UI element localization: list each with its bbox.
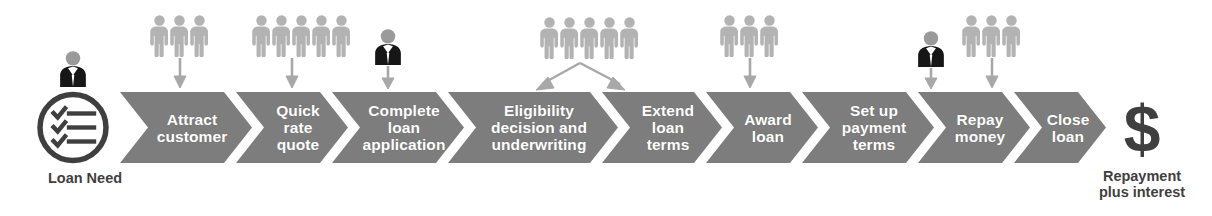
arrow-down-step-8	[925, 68, 937, 89]
chevron-label-step-2: Quick rate quote	[256, 92, 340, 163]
dollar-sign-icon: $	[1124, 92, 1161, 166]
checklist-circle-icon	[40, 95, 106, 161]
businessperson-icon-a4	[375, 29, 401, 65]
end-caption: Repayment plus interest	[1076, 168, 1208, 200]
arrow-split-steps-4-5	[536, 63, 625, 90]
chevron-label-step-3: Complete loan application	[352, 92, 456, 163]
start-caption: Loan Need	[30, 170, 140, 186]
people-group-icon-a6	[720, 15, 778, 57]
people-group-icon-a3	[252, 15, 350, 57]
arrow-down-step-3	[382, 66, 394, 89]
diagram-canvas: $	[0, 0, 1212, 216]
chevron-label-step-9: Close loan	[1034, 92, 1102, 163]
arrow-group	[174, 58, 998, 90]
chevron-label-step-5: Extend loan terms	[622, 92, 714, 163]
businessperson-icon-a7	[918, 31, 944, 67]
chevron-label-step-1: Attract customer	[140, 92, 244, 163]
people-group-icon-a2	[150, 15, 208, 57]
people-group-icon-a5	[540, 17, 638, 59]
arrow-down-step-2	[286, 58, 298, 88]
chevron-label-step-7: Set up payment terms	[822, 92, 926, 163]
chevron-label-step-4: Eligibility decision and underwriting	[468, 92, 610, 163]
people-group-icon-a8	[962, 15, 1020, 57]
chevron-label-step-8: Repay money	[938, 92, 1022, 163]
arrow-down-step-1	[174, 58, 186, 88]
chevron-label-step-6: Award loan	[726, 92, 810, 163]
svg-text:$: $	[1124, 92, 1161, 166]
arrow-down-step-6	[744, 58, 756, 88]
businessperson-icon-a1	[60, 51, 86, 87]
arrow-down-step-9	[986, 58, 998, 88]
